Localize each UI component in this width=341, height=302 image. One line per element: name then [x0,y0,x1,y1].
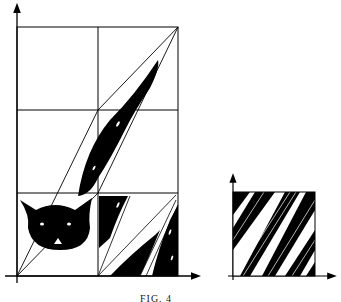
figure-caption: FIG. 4 [140,293,172,302]
mixed-panel [228,178,332,280]
cat-eye-left [40,222,44,225]
figure-canvas [0,0,341,302]
mixed-pattern [233,192,315,276]
stretched-cat [78,60,158,196]
wrapped-pieces [99,196,178,276]
cat-silhouette [20,198,92,250]
main-panel [5,8,196,283]
cat-eye-right [67,222,71,225]
